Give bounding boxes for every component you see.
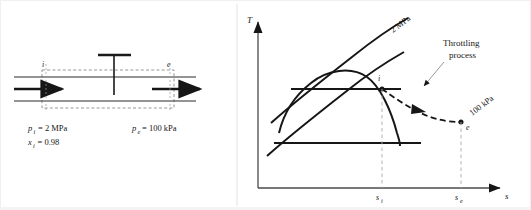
state-point-e-label: e bbox=[466, 123, 470, 132]
exit-pressure-subscript: e bbox=[138, 128, 141, 135]
inlet-pressure-subscript: i bbox=[34, 128, 36, 135]
state-point-i-label: i bbox=[378, 74, 380, 83]
throttling-path bbox=[382, 89, 460, 122]
tick-label-si-subscript: i bbox=[381, 197, 383, 204]
temperature-axis-label: T bbox=[247, 15, 253, 25]
exit-pressure-value: = 100 kPa bbox=[142, 123, 177, 133]
isobar-100kpa-label: 100 kPa bbox=[467, 93, 495, 118]
throttling-annotation-leader bbox=[424, 62, 444, 86]
inlet-quality-subscript: i bbox=[33, 142, 35, 149]
inlet-pressure-symbol: p bbox=[27, 123, 32, 133]
inlet-pressure-value: = 2 MPa bbox=[38, 123, 68, 133]
exit-pressure-symbol: p bbox=[131, 123, 136, 133]
inlet-quality-value: = 0.98 bbox=[38, 137, 60, 147]
isobar-100kpa bbox=[267, 52, 404, 156]
tick-label-se-subscript: e bbox=[460, 197, 463, 204]
throttling-annotation-line1: Throttling bbox=[443, 38, 480, 48]
isobar-2mpa-label: 2 MPa bbox=[388, 13, 412, 35]
inlet-station-label: i bbox=[42, 60, 44, 69]
throttling-path-arrowhead bbox=[411, 104, 426, 114]
ts-diagram-group: T s i e bbox=[247, 13, 509, 204]
tick-label-se: s bbox=[455, 193, 458, 202]
exit-station-label: e bbox=[167, 60, 171, 69]
valve-schematic-group: i e p i = 2 MPa x i = 0.98 p e = 100 kPa bbox=[14, 55, 200, 149]
throttling-annotation-line2: process bbox=[449, 50, 476, 60]
inlet-quality-symbol: x bbox=[27, 137, 32, 147]
tick-label-si: s bbox=[376, 193, 379, 202]
figure-canvas: i e p i = 2 MPa x i = 0.98 p e = 100 kPa… bbox=[0, 0, 531, 210]
figure-root: i e p i = 2 MPa x i = 0.98 p e = 100 kPa… bbox=[0, 0, 531, 210]
entropy-axis-label: s bbox=[505, 191, 509, 201]
